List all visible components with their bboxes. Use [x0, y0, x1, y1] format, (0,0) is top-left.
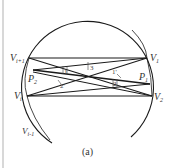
- label-p-1: P1: [138, 71, 148, 83]
- label-v-i-minus-1: Vi-1: [22, 126, 34, 137]
- angle-label-1: 1: [64, 68, 68, 76]
- label-v-i: Vi: [14, 90, 22, 102]
- label-v-2: V2: [154, 91, 163, 103]
- angle-mark-1p: [117, 74, 121, 78]
- angle-label-3: 3: [90, 64, 94, 72]
- angle-label-2-prime: 2': [60, 82, 65, 90]
- polygon-circle-diagram: Vi+1 V1 P2 P1 Vi V2 Vi-1 1 2' 3 1' 2 (a): [0, 0, 176, 168]
- line-p2-p1: [33, 70, 150, 84]
- angle-label-1-prime: 1': [112, 68, 117, 76]
- label-v-1: V1: [150, 52, 159, 64]
- label-p-2: P2: [27, 73, 37, 85]
- label-v-i-plus-1: Vi+1: [10, 52, 25, 64]
- angle-label-2: 2: [113, 80, 117, 88]
- figure-caption: (a): [82, 146, 93, 158]
